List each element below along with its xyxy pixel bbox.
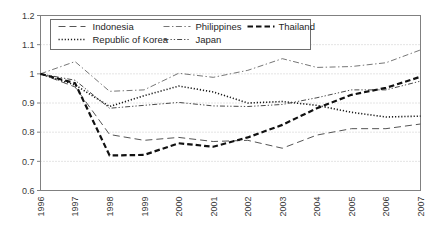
y-tick-label: 0.8: [22, 127, 35, 137]
x-tick-label: 2005: [347, 197, 357, 217]
legend-label-republic-of-korea: Republic of Korea: [93, 34, 169, 45]
y-axis-labels: 0.60.70.80.911.11.2: [22, 11, 35, 196]
x-tick-label: 1998: [105, 197, 115, 217]
grid-lines: [41, 45, 421, 162]
series-line-philippines: [41, 50, 421, 91]
x-tick-label: 1997: [70, 197, 80, 217]
chart-container: 0.60.70.80.911.11.2 19961997199819992000…: [0, 0, 435, 240]
legend-label-philippines: Philippines: [196, 21, 242, 32]
x-tick-label: 1999: [140, 197, 150, 217]
x-tick-label: 2002: [243, 197, 253, 217]
y-tick-label: 1.1: [22, 40, 35, 50]
y-tick-label: 0.7: [22, 157, 35, 167]
x-tick-label: 1996: [36, 197, 46, 217]
x-tick-label: 2004: [312, 197, 322, 217]
legend-label-indonesia: Indonesia: [93, 21, 135, 32]
x-axis-labels: 1996199719981999200020012002200320042005…: [36, 197, 426, 217]
chart-legend: IndonesiaPhilippinesThailandRepublic of …: [51, 20, 315, 50]
y-tick-label: 0.6: [22, 186, 35, 196]
line-chart: 0.60.70.80.911.11.2 19961997199819992000…: [0, 0, 435, 240]
x-tick-label: 2006: [381, 197, 391, 217]
y-tick-label: 0.9: [22, 98, 35, 108]
series-line-indonesia: [41, 74, 421, 148]
x-tick-label: 2000: [174, 197, 184, 217]
x-tick-label: 2007: [416, 197, 426, 217]
y-tick-label: 1: [29, 69, 34, 79]
legend-label-thailand: Thailand: [279, 21, 315, 32]
series-line-thailand: [41, 74, 421, 156]
series-line-republic-of-korea: [41, 74, 421, 117]
x-tick-label: 2003: [278, 197, 288, 217]
legend-box: [51, 20, 311, 50]
y-axis-ticks: [37, 16, 41, 191]
y-tick-label: 1.2: [22, 11, 35, 21]
x-tick-label: 2001: [209, 197, 219, 217]
legend-label-japan: Japan: [196, 34, 222, 45]
